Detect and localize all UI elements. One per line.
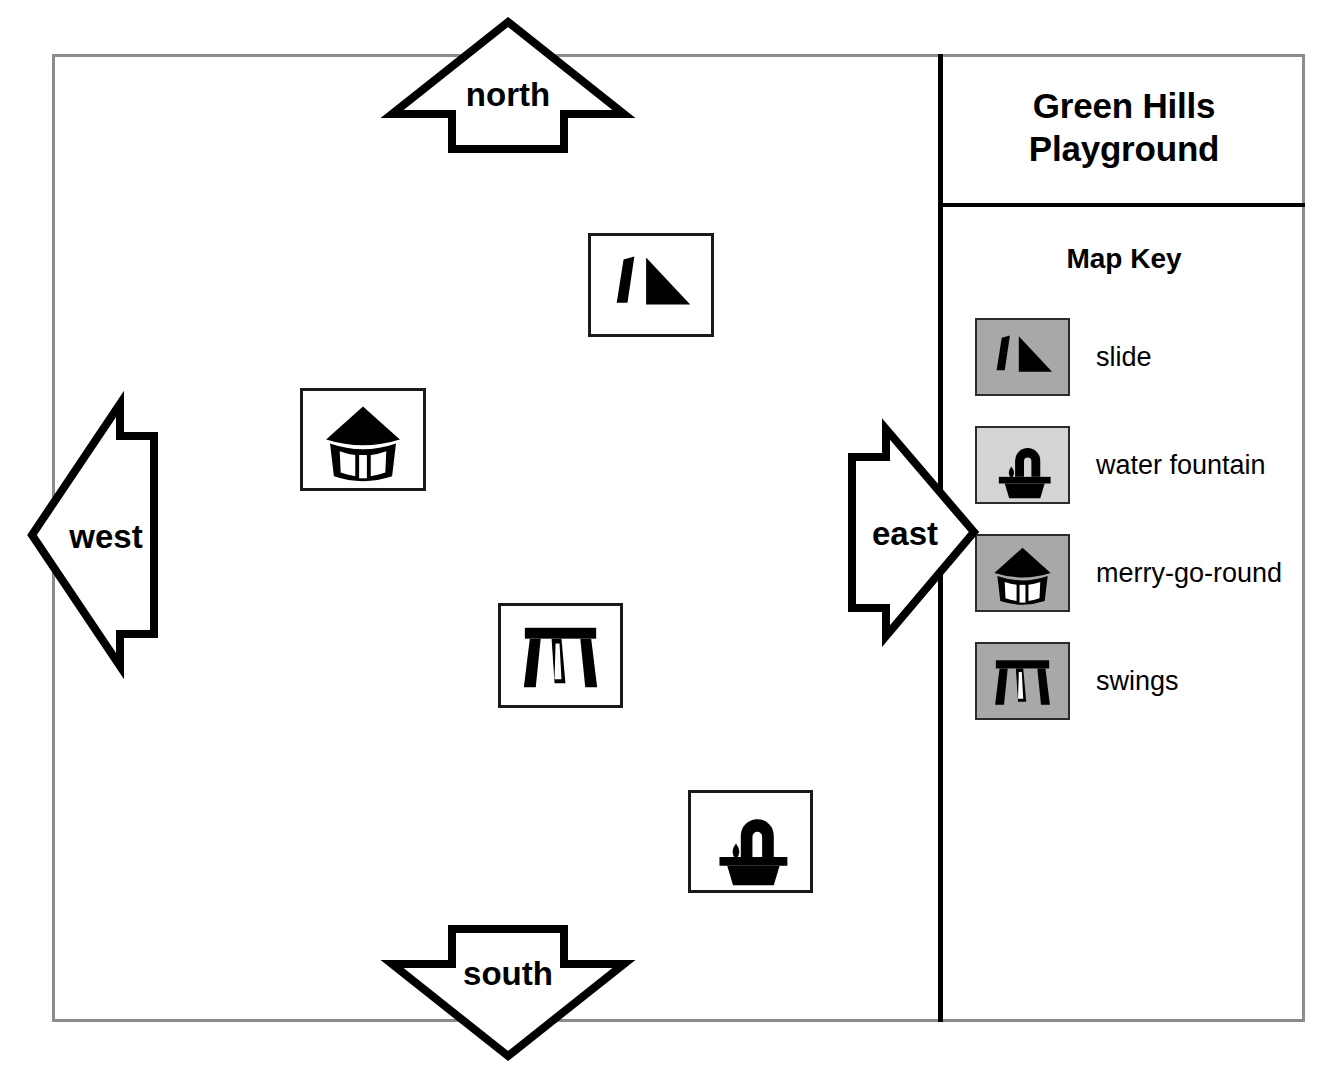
map-symbol-swings[interactable] xyxy=(498,603,623,708)
legend-label-merry-go-round: merry-go-round xyxy=(1096,558,1282,589)
merry-go-round-icon xyxy=(977,536,1068,610)
water-fountain-icon xyxy=(977,428,1068,502)
title-separator-rule xyxy=(938,203,1305,207)
compass-label-north: north xyxy=(388,76,628,114)
compass-label-east: east xyxy=(850,515,960,553)
slide-icon xyxy=(591,236,711,334)
legend-label-swings: swings xyxy=(1096,666,1179,697)
map-page: Green Hills Playground Map Key slide xyxy=(0,0,1338,1066)
water-fountain-icon xyxy=(691,793,810,890)
compass-label-south: south xyxy=(388,955,628,993)
legend-item-slide: slide xyxy=(975,303,1305,411)
slide-icon xyxy=(977,320,1068,394)
merry-go-round-swatch xyxy=(975,534,1070,612)
legend-item-merry-go-round: merry-go-round xyxy=(975,519,1305,627)
map-title-panel: Green Hills Playground xyxy=(943,60,1305,203)
swings-icon xyxy=(977,644,1068,718)
legend-item-swings: swings xyxy=(975,627,1305,735)
swings-swatch xyxy=(975,642,1070,720)
map-symbol-slide[interactable] xyxy=(588,233,714,337)
water-fountain-swatch xyxy=(975,426,1070,504)
slide-swatch xyxy=(975,318,1070,396)
map-symbol-water-fountain[interactable] xyxy=(688,790,813,893)
map-title-line-2: Playground xyxy=(1029,128,1220,171)
map-key-legend: slide water fountain xyxy=(975,303,1305,735)
legend-label-slide: slide xyxy=(1096,342,1152,373)
swings-icon xyxy=(501,606,620,705)
compass-label-west: west xyxy=(46,518,166,556)
merry-go-round-icon xyxy=(303,391,423,488)
map-symbol-merry-go-round[interactable] xyxy=(300,388,426,491)
legend-item-water-fountain: water fountain xyxy=(975,411,1305,519)
map-title-line-1: Green Hills xyxy=(1033,85,1216,128)
map-key-heading: Map Key xyxy=(943,243,1305,275)
legend-label-water-fountain: water fountain xyxy=(1096,450,1266,481)
